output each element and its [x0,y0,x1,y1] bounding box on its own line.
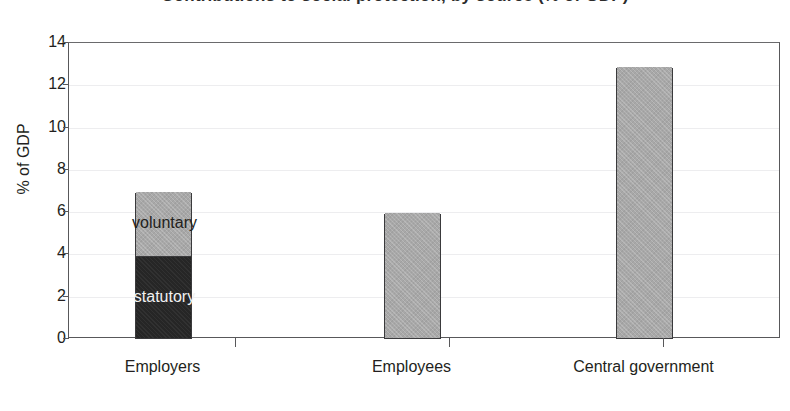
segment-label-voluntary: voluntary [95,214,235,232]
chart-page: Contributions to social protection, by s… [0,0,790,411]
y-axis-tick-label: 4 [26,244,66,262]
y-axis-tick-label: 2 [26,287,66,305]
bar-segment [385,213,440,338]
y-axis-tick-label: 14 [26,33,66,51]
y-axis-tick-label: 6 [26,202,66,220]
x-axis-label-employers: Employers [125,358,201,376]
y-axis-tick-mark [63,338,69,339]
x-axis-tick-mark [449,338,450,347]
y-axis-tick-label: 0 [26,329,66,347]
y-axis-tick-label: 8 [26,160,66,178]
bar-employers: statutoryvoluntary [135,193,192,339]
y-axis-tick-label: 12 [26,75,66,93]
x-axis-tick-mark [663,338,664,347]
plot-area: statutoryvoluntary [68,42,780,338]
x-axis-tick-mark [235,338,236,347]
bar-segment [617,67,672,338]
bar-segment-statutory: statutory [136,256,191,338]
bar-segment-voluntary: voluntary [136,192,191,255]
x-axis-label-employees: Employees [372,358,451,376]
bar-central-government [616,68,673,339]
y-axis-tick-label: 10 [26,118,66,136]
segment-label-statutory: statutory [95,288,235,306]
bar-employees [384,214,441,339]
chart-title-clipped: Contributions to social protection, by s… [0,0,790,6]
x-axis-label-central-government: Central government [573,358,714,376]
